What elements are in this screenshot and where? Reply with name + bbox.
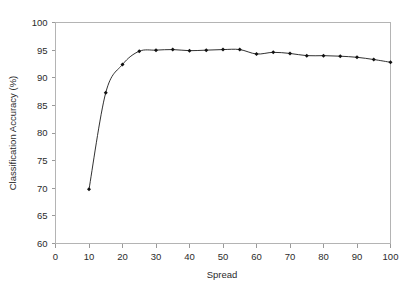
x-tick-label: 90 (352, 251, 363, 262)
y-tick-label: 65 (37, 210, 48, 221)
y-tick-label: 95 (37, 45, 48, 56)
y-tick-label: 100 (32, 17, 48, 28)
x-tick-label: 30 (151, 251, 162, 262)
y-tick-label: 70 (37, 183, 48, 194)
x-tick-label: 70 (285, 251, 296, 262)
x-tick-label: 0 (53, 251, 58, 262)
x-axis-title: Spread (207, 269, 238, 280)
y-tick-label: 85 (37, 100, 48, 111)
accuracy-vs-spread-chart: 6065707580859095100 01020304050607080901… (0, 0, 416, 296)
x-tick-label: 10 (84, 251, 95, 262)
y-tick-label: 60 (37, 238, 48, 249)
x-tick-label: 100 (383, 251, 399, 262)
chart-page: 6065707580859095100 01020304050607080901… (0, 0, 416, 296)
x-tick-label: 50 (218, 251, 229, 262)
x-tick-label: 40 (184, 251, 195, 262)
x-tick-label: 60 (251, 251, 262, 262)
x-tick-label: 20 (117, 251, 128, 262)
plot-canvas: 6065707580859095100 01020304050607080901… (0, 0, 416, 296)
y-axis-title: Classification Accuracy (%) (7, 76, 18, 191)
y-tick-label: 90 (37, 72, 48, 83)
x-tick-label: 80 (318, 251, 329, 262)
y-tick-label: 75 (37, 155, 48, 166)
y-tick-label: 80 (37, 127, 48, 138)
